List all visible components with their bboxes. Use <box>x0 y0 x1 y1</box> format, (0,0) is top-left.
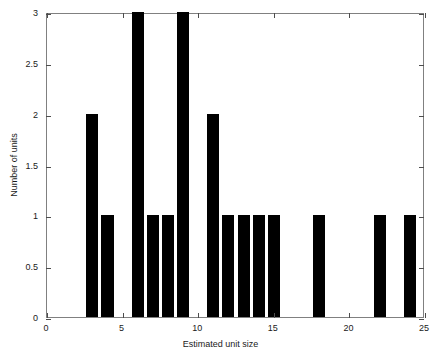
bar-x4-y1 <box>101 215 113 317</box>
x-tick-top-15 <box>274 13 275 18</box>
bar-x14-y1 <box>253 215 265 317</box>
histogram-figure: 0510152025 00.511.522.53 Estimated unit … <box>0 0 441 363</box>
y-tick-0 <box>46 319 51 320</box>
bar-x11-y2 <box>207 114 219 317</box>
bar-x24-y1 <box>404 215 416 317</box>
x-tick-top-5 <box>123 13 124 18</box>
y-tick-1.5 <box>46 167 51 168</box>
y-tick-right-2 <box>419 116 424 117</box>
bar-x7-y1 <box>147 215 159 317</box>
x-tick-25 <box>425 313 426 318</box>
bar-x9-y3 <box>177 12 189 317</box>
y-tick-right-3 <box>419 14 424 15</box>
y-tick-right-2.5 <box>419 65 424 66</box>
x-tick-label-20: 20 <box>343 323 353 334</box>
x-tick-label-5: 5 <box>119 323 124 334</box>
x-tick-10 <box>198 313 199 318</box>
x-tick-0 <box>47 313 48 318</box>
bar-x8-y1 <box>162 215 174 317</box>
y-tick-label-0.5: 0.5 <box>0 262 38 273</box>
x-tick-top-25 <box>425 13 426 18</box>
y-tick-label-3: 3 <box>0 8 38 19</box>
bar-x3-y2 <box>86 114 98 317</box>
bar-x12-y1 <box>222 215 234 317</box>
y-axis-label: Number of units <box>9 133 19 197</box>
y-tick-label-1: 1 <box>0 211 38 222</box>
x-tick-label-25: 25 <box>419 323 429 334</box>
x-tick-5 <box>123 313 124 318</box>
x-tick-label-0: 0 <box>43 323 48 334</box>
bar-x6-y3 <box>132 12 144 317</box>
y-tick-label-0: 0 <box>0 313 38 324</box>
bar-x13-y1 <box>238 215 250 317</box>
y-tick-2 <box>46 116 51 117</box>
y-tick-label-2: 2 <box>0 109 38 120</box>
y-tick-1 <box>46 217 51 218</box>
bar-x18-y1 <box>313 215 325 317</box>
x-tick-label-10: 10 <box>192 323 202 334</box>
y-tick-right-0 <box>419 319 424 320</box>
y-tick-right-0.5 <box>419 268 424 269</box>
x-tick-top-20 <box>349 13 350 18</box>
x-tick-20 <box>349 313 350 318</box>
y-tick-label-1.5: 1.5 <box>0 160 38 171</box>
y-tick-0.5 <box>46 268 51 269</box>
bar-x22-y1 <box>374 215 386 317</box>
x-axis-label: Estimated unit size <box>0 339 441 349</box>
plot-area <box>46 13 424 318</box>
y-tick-3 <box>46 14 51 15</box>
y-tick-2.5 <box>46 65 51 66</box>
y-tick-label-2.5: 2.5 <box>0 58 38 69</box>
bar-x15-y1 <box>268 215 280 317</box>
x-tick-label-15: 15 <box>268 323 278 334</box>
x-tick-top-10 <box>198 13 199 18</box>
y-tick-right-1.5 <box>419 167 424 168</box>
x-tick-15 <box>274 313 275 318</box>
y-tick-right-1 <box>419 217 424 218</box>
bars-layer <box>47 14 423 317</box>
